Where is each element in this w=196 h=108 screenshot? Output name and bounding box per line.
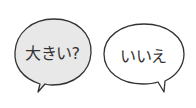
bubble-right-text: いいえ <box>120 43 167 67</box>
bubble-left-text: 大きい? <box>25 40 80 64</box>
